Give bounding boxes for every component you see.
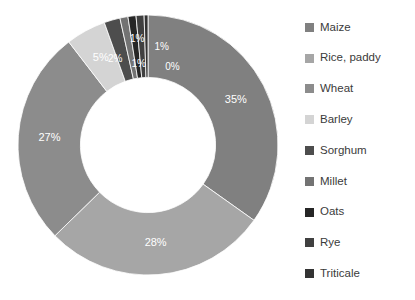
slice-percent-label: 27% [38,131,60,143]
legend-item-label: Millet [320,176,347,188]
legend-swatch-icon [305,84,314,93]
legend-swatch-icon [305,208,314,217]
legend-swatch-icon [305,177,314,186]
legend-item[interactable]: Rice, paddy [305,43,413,74]
slice-percent-label: 35% [225,93,247,105]
slice-percent-label: 0% [165,61,180,72]
legend-item-label: Wheat [320,83,353,95]
slice-percent-label: 2% [108,53,123,64]
legend-item-label: Oats [320,206,344,218]
slice-percent-label: 1% [130,33,145,44]
legend-item-label: Barley [320,114,353,126]
slice-percent-label: 28% [145,236,167,248]
legend-item[interactable]: Millet [305,166,413,197]
legend-item-label: Sorghum [320,145,367,157]
legend-item[interactable]: Wheat [305,74,413,105]
chart-legend: MaizeRice, paddyWheatBarleySorghumMillet… [305,12,413,290]
legend-swatch-icon [305,115,314,124]
slice-percent-label: 1% [154,41,169,52]
donut-chart: 35%28%27%5%2%1%1%1%0% [16,12,280,278]
legend-swatch-icon [305,238,314,247]
slice-percent-label: 5% [93,51,109,63]
legend-swatch-icon [305,146,314,155]
legend-item-label: Rice, paddy [320,52,381,64]
legend-item-label: Maize [320,22,351,34]
legend-swatch-icon [305,54,314,63]
chart-figure: 35%28%27%5%2%1%1%1%0% MaizeRice, paddyWh… [0,0,415,300]
donut-chart-svg: 35%28%27%5%2%1%1%1%0% [16,12,280,278]
legend-item[interactable]: Sorghum [305,135,413,166]
legend-swatch-icon [305,23,314,32]
legend-item-label: Rye [320,237,340,249]
legend-item-label: Triticale [320,268,360,280]
legend-item[interactable]: Barley [305,104,413,135]
legend-swatch-icon [305,269,314,278]
legend-item[interactable]: Maize [305,12,413,43]
legend-item[interactable]: Rye [305,228,413,259]
slice-percent-label: 1% [132,58,147,69]
legend-item[interactable]: Oats [305,197,413,228]
legend-item[interactable]: Triticale [305,258,413,289]
